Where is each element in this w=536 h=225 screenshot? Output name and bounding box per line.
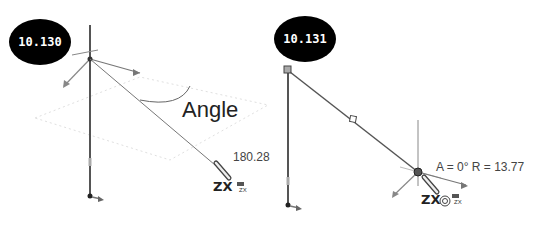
plane-icon-label: ZX: [239, 187, 247, 193]
figure-badge: 10.130: [9, 19, 71, 65]
plane-icon: [237, 182, 244, 186]
cursor-readout: A = 0° R = 13.77: [436, 160, 524, 174]
midpoint-marker[interactable]: [350, 116, 357, 123]
arrow-head-icon: [98, 196, 104, 202]
endpoint[interactable]: [88, 194, 93, 199]
figure-badge: 10.131: [274, 16, 336, 62]
endpoint[interactable]: [286, 203, 291, 208]
triad-axis-arrow-left: [64, 59, 90, 86]
arrow-head-icon: [461, 182, 468, 189]
arrow-head-icon: [133, 69, 140, 76]
concentric-icon: [440, 196, 450, 206]
pencil-cursor-icon: [424, 177, 437, 192]
triad-axis-x: [72, 50, 98, 55]
plane-icon: [452, 194, 459, 198]
figure-10-131: 10.131 A = 0° R = 13.77 ZX ZX: [266, 0, 536, 225]
corner-point[interactable]: [284, 66, 291, 73]
pencil-cursor-icon: [216, 163, 229, 178]
arrow-head-icon: [296, 205, 302, 211]
plane-label: ZX: [213, 179, 232, 194]
plane-icon-label: ZX: [454, 199, 462, 205]
active-endpoint[interactable]: [414, 168, 422, 176]
length-dimension[interactable]: 180.28: [233, 150, 270, 164]
triad-axis-arrow-left: [393, 172, 418, 196]
plane-label: ZX: [421, 192, 440, 207]
angle-annotation: Angle: [182, 97, 238, 123]
figure-10-130: 10.130 Angle 180.28 ZX ZX: [0, 0, 268, 225]
